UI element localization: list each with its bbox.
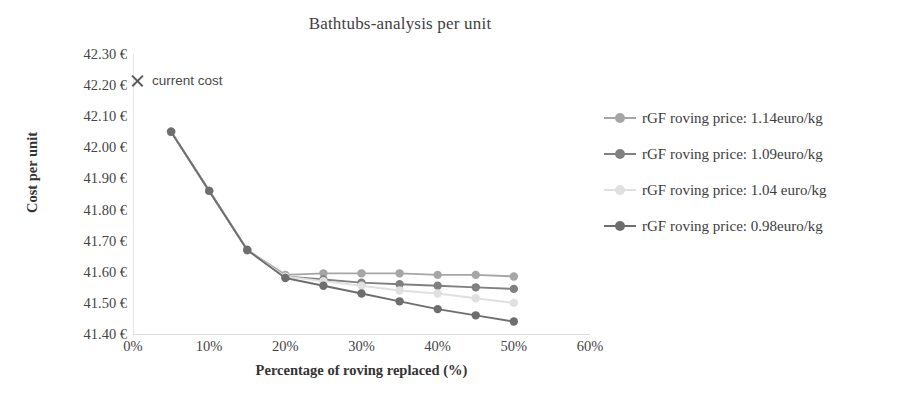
series-line — [171, 132, 514, 303]
data-point — [510, 317, 518, 325]
data-point — [357, 269, 365, 277]
data-point — [433, 289, 441, 297]
data-point — [510, 272, 518, 280]
current-cost-annotation: current cost — [130, 73, 223, 88]
data-point — [395, 269, 403, 277]
legend-swatch-icon — [604, 220, 636, 232]
data-point — [395, 286, 403, 294]
data-point — [357, 289, 365, 297]
legend-swatch-icon — [604, 184, 636, 196]
data-point — [510, 285, 518, 293]
legend-swatch-icon — [604, 112, 636, 124]
current-cost-label: current cost — [152, 73, 223, 88]
data-point — [281, 274, 289, 282]
data-point — [243, 246, 251, 254]
series-line — [171, 132, 514, 277]
x-axis-tick-label: 20% — [272, 338, 299, 355]
legend-label: rGF roving price: 1.14euro/kg — [642, 110, 823, 127]
x-axis-tick-label: 0% — [123, 338, 142, 355]
data-point — [357, 282, 365, 290]
data-point — [510, 299, 518, 307]
data-point — [472, 271, 480, 279]
data-point — [395, 297, 403, 305]
y-axis-tick-label: 42.10 € — [53, 108, 127, 125]
y-axis-tick-label: 41.60 € — [53, 263, 127, 280]
y-axis-tick-label: 42.30 € — [53, 46, 127, 63]
x-axis-tick-label: 30% — [348, 338, 375, 355]
x-axis-tick-label: 10% — [196, 338, 223, 355]
y-axis-tick-label: 42.00 € — [53, 139, 127, 156]
data-point — [433, 282, 441, 290]
data-point — [319, 282, 327, 290]
y-axis-tick-label: 41.40 € — [53, 326, 127, 343]
y-axis-title: Cost per unit — [24, 113, 41, 233]
data-point — [472, 283, 480, 291]
series-1 — [167, 128, 518, 294]
y-axis-tick-label: 41.90 € — [53, 170, 127, 187]
x-axis-line — [133, 334, 590, 335]
y-axis-tick-label: 42.20 € — [53, 77, 127, 94]
data-point — [167, 128, 175, 136]
legend-item[interactable]: rGF roving price: 0.98euro/kg — [604, 208, 894, 244]
chart-title: Bathtubs-analysis per unit — [190, 14, 610, 34]
legend-item[interactable]: rGF roving price: 1.04 euro/kg — [604, 172, 894, 208]
x-axis-tick-label: 60% — [577, 338, 604, 355]
x-marker-icon — [130, 73, 145, 88]
x-axis-tick-label: 40% — [424, 338, 451, 355]
x-axis-title: Percentage of roving replaced (%) — [133, 362, 590, 379]
series-line — [171, 132, 514, 322]
data-point — [472, 294, 480, 302]
data-point — [433, 271, 441, 279]
plot-area — [133, 54, 590, 334]
y-axis-tick-labels: 41.40 €41.50 €41.60 €41.70 €41.80 €41.90… — [51, 54, 127, 334]
series-layer — [133, 54, 590, 334]
legend-label: rGF roving price: 1.09euro/kg — [642, 146, 823, 163]
legend-swatch-icon — [604, 148, 636, 160]
legend-label: rGF roving price: 0.98euro/kg — [642, 218, 823, 235]
legend-item[interactable]: rGF roving price: 1.09euro/kg — [604, 136, 894, 172]
legend-label: rGF roving price: 1.04 euro/kg — [642, 182, 827, 199]
data-point — [472, 311, 480, 319]
y-axis-tick-label: 41.70 € — [53, 232, 127, 249]
x-axis-tick-labels: 0%10%20%30%40%50%60% — [133, 336, 590, 360]
chart-container: Bathtubs-analysis per unit 41.40 €41.50 … — [0, 0, 900, 405]
series-0 — [167, 128, 518, 281]
data-point — [205, 187, 213, 195]
data-point — [433, 305, 441, 313]
legend-item[interactable]: rGF roving price: 1.14euro/kg — [604, 100, 894, 136]
y-axis-tick-label: 41.50 € — [53, 294, 127, 311]
x-axis-tick-label: 50% — [501, 338, 528, 355]
y-axis-tick-label: 41.80 € — [53, 201, 127, 218]
chart-legend: rGF roving price: 1.14euro/kgrGF roving … — [604, 100, 894, 244]
